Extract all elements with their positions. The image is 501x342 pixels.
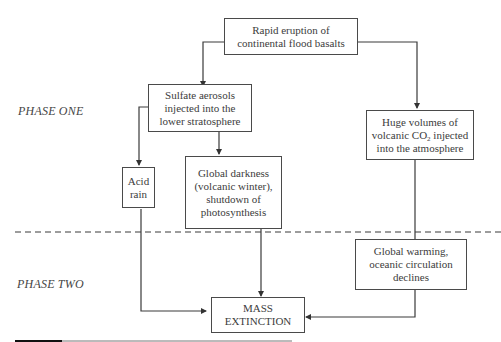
- phase-one-label: PHASE ONE: [18, 104, 83, 119]
- node-warming-line3: declines: [393, 271, 429, 284]
- node-acid-rain: Acid rain: [122, 167, 155, 208]
- node-sulfate-line3: lower stratosphere: [160, 115, 241, 128]
- node-darkness-line2: (volcanic winter),: [194, 180, 272, 193]
- node-extinction-line1: MASS: [243, 302, 273, 315]
- co2-text-post: injected: [431, 129, 469, 141]
- node-sulfate-line2: injected into the: [165, 102, 236, 115]
- node-acid-line1: Acid: [128, 175, 149, 188]
- node-co2-line3: into the atmosphere: [377, 142, 464, 155]
- node-co2-line2: volcanic CO2 injected: [372, 129, 468, 142]
- co2-text: volcanic CO: [372, 129, 427, 141]
- node-darkness-line3: shutdown of: [206, 193, 261, 206]
- node-eruption: Rapid eruption of continental flood basa…: [224, 18, 358, 55]
- node-extinction: MASS EXTINCTION: [211, 297, 305, 333]
- edge-warming-extinction: [306, 289, 415, 317]
- node-eruption-line1: Rapid eruption of: [252, 24, 330, 37]
- node-darkness-line4: photosynthesis: [201, 206, 266, 219]
- node-extinction-line2: EXTINCTION: [225, 315, 292, 328]
- node-co2-line1: Huge volumes of: [382, 116, 458, 129]
- edge-eruption-sulfate: [203, 42, 225, 86]
- node-sulfate-line1: Sulfate aerosols: [165, 89, 235, 102]
- node-acid-line2: rain: [130, 188, 147, 201]
- node-warming: Global warming, oceanic circulation decl…: [355, 239, 467, 290]
- node-warming-line1: Global warming,: [374, 245, 449, 258]
- phase-two-label: PHASE TWO: [17, 277, 84, 292]
- node-darkness: Global darkness (volcanic winter), shutd…: [185, 156, 282, 229]
- node-sulfate: Sulfate aerosols injected into the lower…: [148, 84, 252, 132]
- node-darkness-line1: Global darkness: [198, 167, 269, 180]
- node-warming-line2: oceanic circulation: [369, 258, 452, 271]
- node-co2: Huge volumes of volcanic CO2 injected in…: [366, 110, 474, 160]
- node-eruption-line2: continental flood basalts: [237, 37, 345, 50]
- edge-eruption-co2: [357, 42, 417, 108]
